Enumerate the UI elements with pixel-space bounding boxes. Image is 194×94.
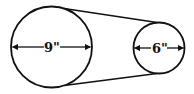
belt-pulley-diagram: 9" 6" bbox=[0, 0, 194, 94]
small-diameter-label: 6" bbox=[152, 41, 168, 56]
large-diameter-label: 9" bbox=[44, 40, 60, 55]
